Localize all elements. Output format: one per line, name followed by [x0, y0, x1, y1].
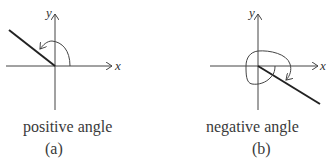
- panel-a-diagram: [6, 14, 112, 110]
- sublabel-a: (a): [45, 140, 63, 158]
- y-axis-label-b: y: [249, 5, 255, 21]
- caption-positive-angle: positive angle: [23, 118, 112, 136]
- rotation-spiral-b: [246, 51, 291, 84]
- panel-b-diagram: [210, 14, 320, 110]
- terminal-side-b: [258, 66, 320, 104]
- sublabel-b: (b): [252, 140, 271, 158]
- x-axis-label-a: x: [115, 58, 121, 74]
- y-axis-label-a: y: [46, 5, 52, 21]
- caption-negative-angle: negative angle: [206, 118, 299, 136]
- x-axis-label-b: x: [320, 58, 326, 74]
- terminal-side-a: [9, 30, 55, 66]
